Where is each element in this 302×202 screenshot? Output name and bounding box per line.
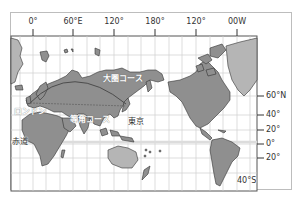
longitude-label-120w: 120° — [186, 18, 205, 26]
south-40-label: 40°S — [237, 177, 256, 185]
latitude-label-0: 0° — [266, 140, 275, 148]
latitude-label-20s: 20° — [266, 154, 280, 162]
longitude-label-60w: 00W — [228, 18, 246, 26]
latitude-label-20n: 20° — [266, 126, 280, 134]
london-label: ロンドン — [14, 108, 46, 116]
tokyo-label: 東京 — [128, 118, 144, 126]
rhumb-line-label: 等角コース — [70, 116, 110, 124]
great-circle-label: 大圏コース — [103, 75, 143, 83]
latitude-label-40n: 40° — [266, 111, 280, 119]
longitude-label-120e: 120° — [104, 18, 123, 26]
longitude-label-180: 180° — [145, 18, 164, 26]
longitude-label-60e: 60°E — [63, 18, 82, 26]
world-map — [0, 0, 302, 202]
equator-label: 赤道 — [12, 138, 28, 146]
latitude-label-60n: 60°N — [266, 92, 286, 100]
longitude-ticks — [33, 29, 237, 36]
longitude-label-0: 0° — [28, 18, 37, 26]
latitude-ticks — [257, 96, 264, 158]
